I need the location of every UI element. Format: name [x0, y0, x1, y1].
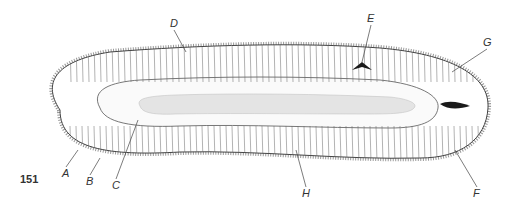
- lumen: [139, 94, 415, 114]
- figure-number: 151: [20, 173, 38, 185]
- label-b: B: [86, 176, 93, 187]
- label-f: F: [473, 188, 480, 199]
- leader-line-g: [452, 49, 487, 72]
- tissue-illustration: [0, 0, 506, 210]
- label-d: D: [170, 18, 178, 29]
- label-h: H: [302, 188, 310, 199]
- label-e: E: [367, 13, 374, 24]
- label-g: G: [483, 37, 492, 48]
- leader-line-a: [66, 150, 78, 167]
- label-a: A: [62, 168, 69, 179]
- epithelium-diagram: 151 ABCDEFGH: [0, 0, 506, 210]
- leader-line-b: [90, 158, 100, 175]
- leader-line-f: [455, 150, 477, 187]
- label-c: C: [112, 180, 120, 191]
